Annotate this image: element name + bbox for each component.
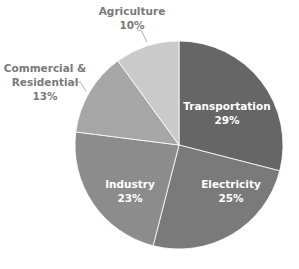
label-category: Transportation — [183, 99, 270, 113]
data-label-electricity: Electricity 25% — [201, 177, 261, 205]
label-percent: 10% — [99, 18, 166, 32]
label-category-line1: Commercial & — [4, 61, 86, 75]
data-label-transportation: Transportation 29% — [183, 99, 270, 127]
label-percent: 25% — [201, 191, 261, 205]
label-category: Industry — [105, 177, 155, 191]
pie-slices — [75, 41, 283, 249]
label-category: Agriculture — [99, 4, 166, 18]
pie-chart: Transportation 29% Electricity 25% Indus… — [0, 0, 299, 269]
label-category-line2: Residential — [4, 75, 86, 89]
label-category: Electricity — [201, 177, 261, 191]
label-percent: 13% — [4, 89, 86, 103]
label-percent: 29% — [183, 113, 270, 127]
data-label-industry: Industry 23% — [105, 177, 155, 205]
pie-plot-area — [0, 0, 299, 269]
label-percent: 23% — [105, 191, 155, 205]
data-label-commercial-residential: Commercial & Residential 13% — [4, 61, 86, 103]
data-label-agriculture: Agriculture 10% — [99, 4, 166, 32]
